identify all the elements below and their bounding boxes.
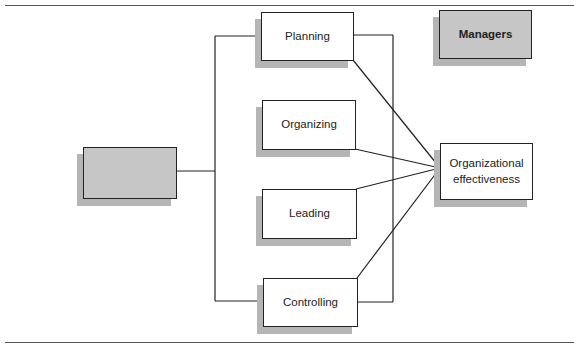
managers-legend-label: Managers [459, 27, 513, 43]
leading-label: Leading [289, 206, 330, 222]
leading-box: Leading [262, 189, 357, 239]
managers-source-box [83, 147, 177, 199]
planning-box: Planning [261, 12, 354, 61]
controlling-box: Controlling [263, 278, 358, 327]
planning-label: Planning [285, 29, 330, 45]
outcome-label-line2: effectiveness [453, 172, 520, 188]
organizing-box: Organizing [262, 100, 356, 150]
controlling-label: Controlling [283, 295, 338, 311]
organizing-label: Organizing [281, 117, 337, 133]
organizational-effectiveness-box: Organizational effectiveness [440, 143, 533, 200]
outcome-label-line1: Organizational [449, 156, 523, 172]
managers-legend-box: Managers [439, 10, 532, 59]
